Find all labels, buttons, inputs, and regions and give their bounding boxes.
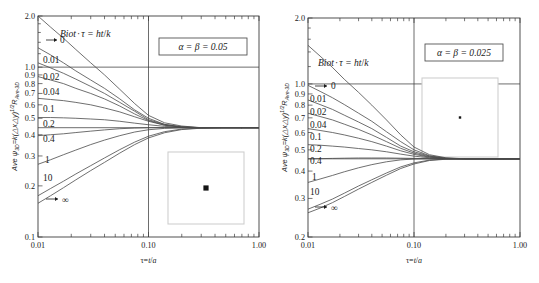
curve-label-arrowhead bbox=[55, 197, 58, 201]
y-tick-label: 2.0 bbox=[295, 14, 305, 23]
y-tick-label: 0.7 bbox=[25, 89, 35, 98]
y-tick-label: 0.5 bbox=[25, 114, 35, 123]
biot-annotation: Biot·τ=ht/k bbox=[60, 28, 111, 39]
curve-label: 0.04 bbox=[43, 87, 60, 97]
curve-label: 0.02 bbox=[43, 72, 60, 82]
x-tick-label: 0.01 bbox=[301, 241, 315, 250]
plot-area-left: 0.010.101.000.10.20.30.40.50.60.70.80.91… bbox=[0, 0, 269, 283]
curve-label: 0.02 bbox=[310, 107, 327, 117]
curve-label-arrowhead bbox=[324, 84, 327, 88]
parameter-label: α = β = 0.025 bbox=[437, 47, 491, 58]
x-tick-label: 1.00 bbox=[513, 241, 527, 250]
y-tick-label: 0.5 bbox=[295, 146, 305, 155]
y-tick-label: 0.8 bbox=[295, 101, 305, 110]
curve-label: 0.04 bbox=[310, 120, 327, 130]
x-axis-title: τ=t/a bbox=[406, 256, 422, 265]
y-tick-label: 1.0 bbox=[25, 63, 35, 72]
y-tick-label: 0.6 bbox=[295, 129, 305, 138]
x-tick-label: 0.10 bbox=[141, 241, 155, 250]
y-tick-label: 0.1 bbox=[25, 233, 35, 242]
y-tick-label: 0.3 bbox=[295, 194, 305, 203]
biot-annotation: Biot·τ=ht/k bbox=[318, 57, 369, 68]
svg-text:Ave ψ3D=k(△x△y)1/2RAve-3D: Ave ψ3D=k(△x△y)1/2RAve-3D bbox=[279, 83, 289, 173]
x-tick-label: 0.10 bbox=[407, 241, 421, 250]
y-tick-label: 0.4 bbox=[295, 167, 305, 176]
svg-text:Ave ψ3D=k(△x△y)1/2RAve-3D: Ave ψ3D=k(△x△y)1/2RAve-3D bbox=[9, 82, 19, 172]
curve-label: ∞ bbox=[331, 203, 338, 213]
curve-label: 0.4 bbox=[310, 156, 322, 166]
y-tick-label: 0.9 bbox=[25, 71, 35, 80]
curve-label-arrowhead bbox=[54, 38, 57, 42]
chart-panel-left: 0.010.101.000.10.20.30.40.50.60.70.80.91… bbox=[0, 0, 269, 283]
x-tick-label: 1.00 bbox=[252, 241, 266, 250]
x-axis-title: τ=t/a bbox=[140, 256, 156, 265]
curve-label: 0.1 bbox=[43, 104, 55, 114]
x-tick-label: 0.01 bbox=[31, 241, 45, 250]
curve-label: 0.1 bbox=[310, 132, 322, 142]
y-tick-label: 0.2 bbox=[295, 233, 305, 242]
figure-root: 0.010.101.000.10.20.30.40.50.60.70.80.91… bbox=[0, 0, 539, 283]
curve-label: 0.4 bbox=[43, 134, 55, 144]
curve-label: ∞ bbox=[62, 195, 69, 205]
curve-label: 0.01 bbox=[310, 94, 327, 104]
y-tick-label: 0.7 bbox=[295, 114, 305, 123]
y-tick-label: 0.6 bbox=[25, 101, 35, 110]
curve-label: 10 bbox=[310, 187, 320, 197]
inset-center-dot bbox=[459, 116, 461, 118]
chart-panel-right: 0.010.101.000.20.30.40.50.60.70.80.91.02… bbox=[270, 0, 539, 283]
y-tick-label: 0.9 bbox=[295, 90, 305, 99]
y-tick-label: 0.2 bbox=[25, 182, 35, 191]
curve-label: 0.01 bbox=[43, 55, 60, 65]
y-tick-label: 0.3 bbox=[25, 152, 35, 161]
inset-center-dot bbox=[203, 185, 208, 190]
curve-label: 10 bbox=[43, 173, 53, 183]
parameter-label: α = β = 0.05 bbox=[178, 41, 227, 52]
curve-label: 0.2 bbox=[310, 144, 322, 154]
plot-area-right: 0.010.101.000.20.30.40.50.60.70.80.91.02… bbox=[270, 0, 539, 283]
curve-label: 0 bbox=[60, 35, 65, 45]
curve-label: 1 bbox=[312, 172, 317, 182]
y-tick-label: 1.0 bbox=[295, 80, 305, 89]
y-tick-label: 0.4 bbox=[25, 131, 35, 140]
curve-label: 0 bbox=[331, 81, 336, 91]
curve-label: 0.2 bbox=[43, 119, 55, 129]
curve-label: 1 bbox=[45, 155, 50, 165]
y-axis-title: Ave ψ3D=k(△x△y)1/2RAve-3D bbox=[9, 82, 19, 172]
y-tick-label: 0.8 bbox=[25, 80, 35, 89]
y-tick-label: 2.0 bbox=[25, 12, 35, 21]
y-axis-title: Ave ψ3D=k(△x△y)1/2RAve-3D bbox=[279, 83, 289, 173]
